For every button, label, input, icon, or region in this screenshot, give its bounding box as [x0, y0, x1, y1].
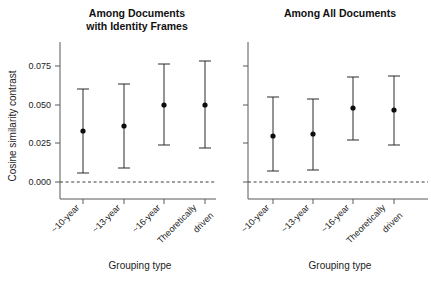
y-tick-label-0.025: 0.025	[28, 138, 51, 148]
panel-title-line1: Among Documents	[89, 7, 185, 19]
data-point	[391, 107, 396, 112]
y-tick-label-0.075: 0.075	[28, 61, 51, 71]
x-axis-title: Grouping type	[109, 260, 172, 271]
y-tick-label-0.000: 0.000	[28, 177, 51, 187]
chart-background	[0, 0, 431, 291]
data-point	[202, 102, 207, 107]
y-tick-label-0.050: 0.050	[28, 100, 51, 110]
data-point	[270, 133, 275, 138]
x-axis-title: Grouping type	[309, 260, 372, 271]
data-point	[350, 105, 355, 110]
data-point	[161, 102, 166, 107]
y-axis-title: Cosine similarity contrast	[7, 70, 18, 181]
panel-title-line1: Among All Documents	[284, 7, 396, 19]
panel-title-line2: with Identity Frames	[85, 20, 188, 32]
error-bar-chart: Among Documents with Identity Frames Cos…	[0, 0, 431, 291]
data-point	[80, 128, 85, 133]
data-point	[121, 123, 126, 128]
figure-container: Among Documents with Identity Frames Cos…	[0, 0, 431, 291]
data-point	[310, 131, 315, 136]
